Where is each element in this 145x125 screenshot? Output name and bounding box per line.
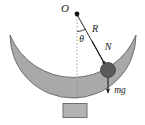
label-angle-theta: θ xyxy=(79,34,84,44)
label-radius-R: R xyxy=(91,23,98,34)
label-weight-mg: mg xyxy=(114,85,126,95)
theta-arc xyxy=(77,29,85,31)
physics-figure: O R θ N mg xyxy=(0,0,145,125)
pedestal-base xyxy=(63,104,87,118)
physics-diagram-canvas: O R θ N mg xyxy=(0,0,145,125)
label-pivot-O: O xyxy=(61,2,69,14)
label-normal-force-N: N xyxy=(104,41,113,52)
normal-force-arrow xyxy=(92,41,106,65)
pivot-dot xyxy=(75,12,80,17)
ball xyxy=(101,63,116,78)
